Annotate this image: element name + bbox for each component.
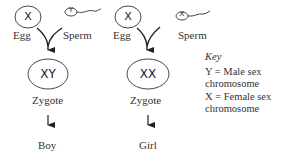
key-legend: Key Y = Male sex chromosome X = Female s… [205, 51, 271, 116]
merge-arrow-left-1 [37, 28, 48, 46]
sperm-tail-1 [77, 9, 101, 12]
zygote-chromosomes-1: XY [34, 67, 62, 81]
key-entry-x-line1: X = Female sex [205, 91, 271, 104]
zygote-label-2: Zygote [130, 94, 161, 106]
egg-label-1: Egg [13, 29, 31, 41]
sperm-tail-2 [188, 11, 210, 16]
key-title: Key [205, 51, 271, 64]
key-entry-y-line1: Y = Male sex [205, 66, 271, 79]
merge-arrow-right-2 [147, 27, 160, 46]
sperm-chromosome-2: X [178, 10, 186, 18]
key-entry-x-line2: chromosome [205, 103, 271, 116]
zygote-label-1: Zygote [32, 94, 63, 106]
merge-arrow-left-2 [137, 28, 147, 46]
merge-arrow-right-1 [48, 28, 62, 46]
egg-label-2: Egg [113, 29, 131, 41]
sperm-label-1: Sperm [63, 29, 92, 41]
zygote-chromosomes-2: XX [133, 67, 163, 81]
egg-chromosome-2: X [122, 10, 134, 23]
egg-chromosome-1: X [22, 10, 34, 23]
sperm-label-2: Sperm [178, 29, 207, 41]
key-entry-y-line2: chromosome [205, 78, 271, 91]
sperm-chromosome-1: Y [67, 6, 75, 14]
outcome-label-1: Boy [38, 139, 56, 151]
outcome-label-2: Girl [139, 139, 157, 151]
